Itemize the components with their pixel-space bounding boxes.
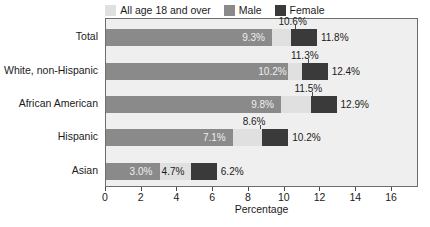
category-label: African American — [19, 97, 98, 110]
x-axis-tick-label: 16 — [378, 191, 404, 203]
x-axis-title: Percentage — [105, 203, 418, 215]
legend-swatch-male — [224, 5, 235, 16]
category-label: Hispanic — [58, 130, 98, 143]
bar-label-all: 11.5% — [295, 83, 323, 94]
bar-label-female: 10.2% — [292, 132, 320, 143]
bar-group: 10.2%12.4% — [106, 63, 417, 80]
bar-segment-female — [291, 29, 317, 46]
bar-group: 3.0%6.2%4.7% — [106, 163, 417, 180]
legend-swatch-all — [105, 5, 116, 16]
bar-label-all: 11.3% — [291, 50, 319, 61]
chart-legend: All age 18 and over Male Female — [0, 2, 430, 18]
x-axis-tick-label: 4 — [163, 191, 189, 203]
bar-label-male: 7.1% — [203, 132, 226, 143]
category-label: Total — [76, 30, 98, 43]
bar-segment-female — [302, 63, 328, 80]
x-axis-tick-label: 14 — [342, 191, 368, 203]
legend-item-male: Male — [224, 5, 262, 16]
bar-label-male: 10.2% — [258, 66, 286, 77]
legend-label-female: Female — [290, 5, 325, 16]
bar-label-all: 10.6% — [278, 16, 306, 27]
legend-swatch-female — [275, 5, 286, 16]
legend-item-all: All age 18 and over — [105, 5, 210, 16]
bar-label-female: 11.8% — [321, 32, 349, 43]
category-label: Asian — [72, 164, 98, 177]
category-label: White, non-Hispanic — [4, 64, 98, 77]
x-axis: 0246810121416 — [105, 187, 418, 197]
legend-label-male: Male — [239, 5, 262, 16]
x-axis-tick-label: 6 — [199, 191, 225, 203]
bar-chart: All age 18 and over Male Female TotalWhi… — [0, 0, 430, 227]
bar-label-female: 12.4% — [332, 66, 360, 77]
x-axis-tick-label: 8 — [235, 191, 261, 203]
bar-label-all: 4.7% — [162, 166, 185, 177]
plot-inner: 9.3%11.8%10.6%10.2%12.4%11.3%9.8%12.9%11… — [106, 19, 417, 186]
bar-label-female: 12.9% — [341, 99, 369, 110]
bar-group: 9.8%12.9% — [106, 96, 417, 113]
bar-group: 9.3%11.8% — [106, 29, 417, 46]
x-axis-tick-label: 0 — [92, 191, 118, 203]
bar-label-male: 3.0% — [130, 166, 153, 177]
bar-segment-female — [262, 129, 288, 146]
x-axis-tick-label: 10 — [271, 191, 297, 203]
value-tick-all — [295, 25, 296, 29]
x-axis-tick-label: 12 — [306, 191, 332, 203]
plot-area: 9.3%11.8%10.6%10.2%12.4%11.3%9.8%12.9%11… — [105, 18, 418, 187]
bar-label-male: 9.3% — [242, 32, 265, 43]
legend-label-all: All age 18 and over — [120, 5, 210, 16]
bar-segment-female — [191, 163, 217, 180]
legend-item-female: Female — [275, 5, 325, 16]
bar-label-male: 9.8% — [251, 99, 274, 110]
value-tick-all — [312, 92, 313, 96]
bar-label-female: 6.2% — [221, 166, 244, 177]
x-axis-tick-label: 2 — [128, 191, 154, 203]
category-axis-labels: TotalWhite, non-HispanicAfrican American… — [0, 18, 102, 187]
bar-segment-female — [311, 96, 337, 113]
bar-group: 7.1%10.2% — [106, 129, 417, 146]
value-tick-all — [308, 59, 309, 63]
bar-label-all: 8.6% — [243, 116, 266, 127]
value-tick-all — [260, 125, 261, 129]
